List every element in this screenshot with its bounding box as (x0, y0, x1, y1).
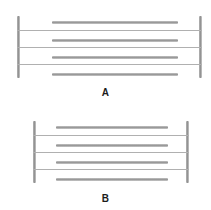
panel-b: B (0, 105, 211, 210)
panel-a-rung-1 (17, 47, 202, 48)
panel-a-label: A (0, 87, 211, 98)
panel-a-bar-1 (52, 39, 178, 42)
panel-a-rung-0 (17, 30, 202, 31)
panel-a-rung-2 (17, 64, 202, 65)
panel-a-bar-2 (52, 56, 178, 59)
panel-b-bar-1 (56, 144, 168, 147)
panel-b-rung-1 (33, 152, 189, 153)
panel-a-bar-0 (52, 21, 178, 24)
panel-a-diagram (0, 0, 211, 86)
ladder-diagram-figure: A B (0, 0, 211, 210)
panel-b-diagram (0, 105, 211, 191)
panel-b-rung-2 (33, 169, 189, 170)
panel-b-bar-3 (56, 178, 168, 181)
panel-b-rung-0 (33, 135, 189, 136)
panel-b-label: B (0, 193, 211, 204)
panel-a-bar-3 (52, 73, 178, 76)
panel-b-bar-0 (56, 126, 168, 129)
panel-a: A (0, 0, 211, 105)
panel-b-bar-2 (56, 161, 168, 164)
